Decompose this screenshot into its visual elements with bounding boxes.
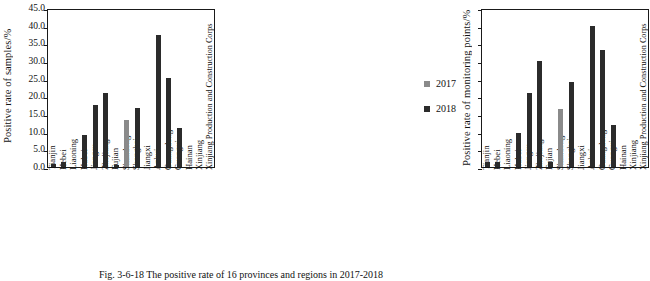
y-axis-label-left: Positive rate of samples/% (2, 6, 13, 166)
y-tick-mark (44, 98, 48, 99)
x-tick-label: Liaoning (503, 139, 512, 170)
bar-slot (566, 10, 577, 167)
bar-2018 (61, 162, 66, 167)
chart-panel-right: Positive rate of monitoring points/% Tia… (232, 0, 482, 281)
bar-slot (153, 10, 164, 167)
legend-label: 2018 (436, 103, 456, 114)
y-tick-label: 15.0 (28, 110, 45, 120)
legend-item-2018: 2018 (424, 103, 480, 114)
x-tick-label: Jiangxi (577, 145, 586, 170)
bar-2018 (166, 78, 171, 167)
y-axis-tick-labels-left: 0.05.010.015.020.025.030.035.040.045.0 (13, 0, 45, 281)
bar-2018 (156, 35, 161, 168)
x-tick-label: Jiangxi (143, 145, 152, 170)
figure-caption: Fig. 3-6-18 The positive rate of 16 prov… (0, 269, 482, 280)
y-tick-mark (44, 28, 48, 29)
y-tick-label: 20.0 (28, 93, 45, 103)
y-tick-mark (478, 134, 482, 135)
x-tick-label: Hainan (185, 145, 194, 170)
bar-2017 (558, 109, 563, 167)
y-tick-label: 0.0 (33, 163, 45, 173)
x-tick-label: Xinjiang (629, 140, 638, 170)
y-tick-label: 40.0 (28, 22, 45, 32)
legend-label: 2017 (436, 78, 456, 89)
x-tick-label: Hainan (619, 145, 628, 170)
bar-2018 (82, 135, 87, 167)
y-tick-label: 30.0 (28, 57, 45, 67)
bar-2018 (103, 93, 108, 167)
y-tick-mark (478, 10, 482, 11)
y-tick-mark (44, 10, 48, 11)
bar-2018 (611, 125, 616, 167)
y-tick-label: 25.0 (28, 75, 45, 85)
x-axis-tick-labels-left: TianjinHebeiLiaoningHubeiJiangsuZhejiang… (47, 170, 215, 278)
bar-slot (482, 10, 493, 167)
bar-2018 (485, 162, 490, 167)
y-tick-mark (478, 45, 482, 46)
legend-swatch-icon (424, 106, 430, 112)
y-tick-label: 35.0 (28, 40, 45, 50)
bar-slot (132, 10, 143, 167)
bar-slot (587, 10, 598, 167)
bar-slot (524, 10, 535, 167)
x-tick-label: Xinjiang Production and Construction Cor… (206, 24, 214, 170)
bar-2018 (114, 165, 119, 167)
bar-slot (143, 10, 154, 167)
y-tick-label: 45.0 (28, 4, 45, 14)
bar-slot (90, 10, 101, 167)
bar-slot (111, 10, 122, 167)
x-tick-label: Xinjiang Production and Construction Cor… (640, 24, 648, 170)
y-tick-mark (478, 63, 482, 64)
y-tick-mark (44, 45, 48, 46)
bar-slot (48, 10, 59, 167)
x-tick-label: Xinjiang (195, 140, 204, 170)
bar-2018 (527, 93, 532, 167)
bar-2018 (600, 50, 605, 167)
y-tick-mark (478, 28, 482, 29)
bar-slot (608, 10, 619, 167)
bar-slot (545, 10, 556, 167)
bar-2018 (495, 162, 500, 167)
bar-2018 (590, 26, 595, 167)
legend-swatch-icon (424, 81, 430, 87)
bar-2018 (516, 133, 521, 167)
bar-2018 (135, 108, 140, 167)
bar-2018 (93, 105, 98, 167)
bar-2017 (124, 120, 129, 167)
x-tick-label: Liaoning (69, 139, 78, 170)
bar-slot (174, 10, 185, 167)
chart-legend: 20172018 (424, 78, 480, 128)
y-tick-mark (44, 81, 48, 82)
bar-2018 (548, 162, 553, 167)
y-tick-label: 5.0 (33, 146, 45, 156)
bar-2018 (51, 164, 56, 167)
bar-2018 (569, 82, 574, 167)
y-tick-mark (44, 116, 48, 117)
y-tick-label: 10.0 (28, 128, 45, 138)
legend-item-2017: 2017 (424, 78, 480, 89)
x-axis-tick-labels-right: TianjinHebeiLiaoningHubeiJiangsuZhejiang… (481, 170, 649, 278)
y-tick-mark (44, 134, 48, 135)
bar-2018 (177, 128, 182, 167)
bar-2018 (537, 61, 542, 167)
y-tick-mark (44, 63, 48, 64)
bar-slot (577, 10, 588, 167)
chart-panel-left: Positive rate of samples/% 0.05.010.015.… (0, 0, 236, 281)
